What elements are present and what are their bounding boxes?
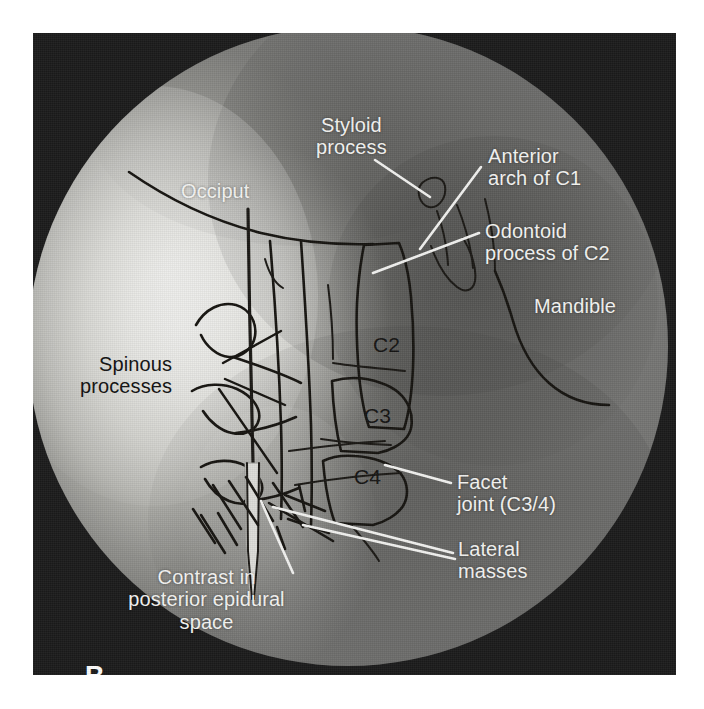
label-contrast-epidural-space: Contrast in posterior epidural space (99, 566, 314, 633)
panel-letter: B (85, 661, 105, 675)
label-mandible: Mandible (534, 295, 616, 317)
label-lateral-masses: Lateral masses (458, 538, 528, 583)
leader-spinous-3 (219, 389, 277, 473)
label-vertebra-c2: C2 (373, 333, 400, 357)
leader-lateral-masses-2 (303, 525, 455, 559)
leader-facet-joint (385, 465, 451, 483)
label-odontoid-process-c2: Odontoid process of C2 (485, 220, 610, 265)
label-vertebra-c3: C3 (364, 404, 391, 428)
leader-lateral-masses-1 (273, 507, 453, 553)
label-styloid-process: Styloid process (316, 114, 387, 159)
figure-page: Styloid process Occiput Anterior arch of… (0, 0, 704, 709)
label-facet-joint: Facet joint (C3/4) (457, 471, 556, 516)
label-spinous-processes: Spinous processes (80, 353, 172, 398)
label-anterior-arch-c1: Anterior arch of C1 (488, 145, 581, 190)
leader-styloid-process (375, 160, 430, 197)
label-occiput: Occiput (181, 180, 250, 202)
radiograph-plate: Styloid process Occiput Anterior arch of… (33, 33, 676, 675)
leader-spinous-1 (223, 331, 281, 363)
leader-spinous-2 (225, 379, 285, 405)
label-vertebra-c4: C4 (354, 465, 381, 489)
